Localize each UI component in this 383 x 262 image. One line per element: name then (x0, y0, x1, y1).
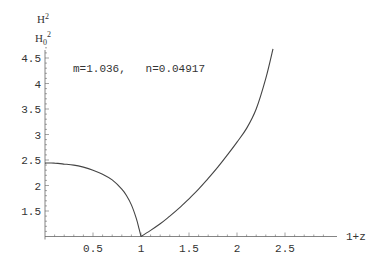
y-tick-label: 3 (34, 130, 41, 142)
y-axis-label-denominator: H02 (35, 30, 51, 47)
y-tick-label: 3.5 (21, 104, 41, 116)
y-tick-label: 4 (34, 79, 41, 91)
curve-right-branch (141, 49, 273, 237)
y-axis-label-numerator: H2 (37, 12, 49, 25)
y-tick-label: 2.5 (21, 155, 41, 167)
ticks: 0.511.522.51.522.533.544.5 (21, 48, 323, 255)
x-tick-label: 0.5 (83, 243, 103, 255)
x-axis-label: 1+z (346, 231, 366, 243)
axes (45, 50, 337, 240)
x-tick-label: 1.5 (179, 243, 199, 255)
chart: 0.511.522.51.522.533.544.5 H2 H02 m=1.03… (0, 0, 383, 262)
x-tick-label: 2.5 (275, 243, 295, 255)
x-tick-label: 1 (138, 243, 145, 255)
curve-left-branch (45, 163, 141, 236)
y-tick-label: 4.5 (21, 53, 41, 65)
curves (45, 49, 273, 237)
y-tick-label: 2 (34, 181, 41, 193)
y-tick-label: 1.5 (21, 206, 41, 218)
parameter-annotation: m=1.036, n=0.04917 (73, 63, 205, 75)
x-tick-label: 2 (234, 243, 241, 255)
